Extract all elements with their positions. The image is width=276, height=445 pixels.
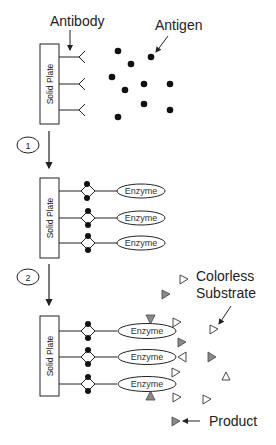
antigen-dots bbox=[109, 48, 174, 121]
step-1: 1 bbox=[17, 131, 49, 168]
elisa-diagram: Antibody Antigen Solid Plate 1 bbox=[0, 0, 276, 445]
step-2: 2 bbox=[17, 264, 49, 305]
product-label: Product bbox=[209, 413, 257, 429]
colorless-substrate-label-line2: Substrate bbox=[196, 285, 256, 301]
substrate-pointer-arrow bbox=[219, 306, 231, 324]
enzyme-label: Enzyme bbox=[131, 326, 164, 336]
stage-2: Solid Plate Enzyme Enzyme Enzyme bbox=[40, 178, 165, 258]
antibody-antigen-enzyme-complex: Enzyme Enzyme Enzyme bbox=[59, 181, 165, 253]
enzyme-label: Enzyme bbox=[125, 213, 158, 223]
antigen-pointer-arrow bbox=[156, 36, 168, 52]
stage-3: Solid Plate Enzyme Enzyme Enzyme bbox=[40, 268, 257, 429]
antibody-label: Antibody bbox=[50, 13, 104, 29]
enzyme-label: Enzyme bbox=[125, 238, 158, 248]
enzyme-label: Enzyme bbox=[125, 186, 158, 196]
antibody-icon bbox=[59, 51, 85, 116]
enzyme-label: Enzyme bbox=[131, 379, 164, 389]
enzyme-label: Enzyme bbox=[131, 352, 164, 362]
stage-1: Antibody Antigen Solid Plate bbox=[40, 13, 202, 124]
step-1-number: 1 bbox=[25, 141, 30, 151]
solid-plate-label: Solid Plate bbox=[45, 63, 55, 104]
solid-plate-label: Solid Plate bbox=[45, 197, 55, 238]
antigen-label: Antigen bbox=[155, 17, 202, 33]
step-2-number: 2 bbox=[25, 273, 30, 283]
solid-plate-label: Solid Plate bbox=[45, 335, 55, 376]
antibody-antigen-enzyme-complex: Enzyme Enzyme Enzyme bbox=[59, 321, 176, 394]
colorless-substrate-label: Colorless bbox=[196, 268, 254, 284]
